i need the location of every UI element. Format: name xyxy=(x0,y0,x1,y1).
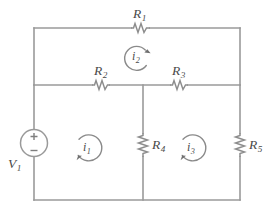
label-i1: i1 xyxy=(83,141,90,153)
resistor-r1-symbol xyxy=(131,24,150,33)
label-i3: i3 xyxy=(187,141,194,153)
label-r1: R1 xyxy=(133,7,146,21)
label-r3: R3 xyxy=(172,64,185,78)
resistor-r4-symbol xyxy=(139,133,148,157)
resistor-r5-symbol xyxy=(236,133,245,157)
label-r5: R5 xyxy=(249,138,262,152)
resistor-r3-symbol xyxy=(170,81,188,90)
label-v1: V1 xyxy=(8,157,21,171)
circuit-schematic-canvas xyxy=(0,0,271,217)
circuit-diagram: R1 R2 R3 R4 R5 V1 i1 i2 i3 xyxy=(0,0,271,217)
label-r4: R4 xyxy=(152,138,165,152)
resistor-r2-symbol xyxy=(92,81,110,90)
label-i2: i2 xyxy=(132,50,139,62)
label-r2: R2 xyxy=(94,64,107,78)
